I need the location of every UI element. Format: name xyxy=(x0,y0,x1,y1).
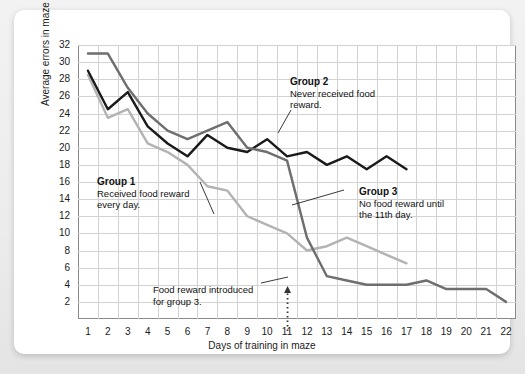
x-axis-tick-label: 6 xyxy=(178,326,198,337)
y-axis-tick-label: 16 xyxy=(44,176,70,187)
x-axis-tick-label: 21 xyxy=(476,326,496,337)
x-axis-tick-label: 12 xyxy=(297,326,317,337)
x-axis-tick-label: 5 xyxy=(158,326,178,337)
y-axis-tick-label: 32 xyxy=(44,39,70,50)
annotation-food-reward-line2: for group 3. xyxy=(153,296,253,308)
x-axis-tick-label: 7 xyxy=(197,326,217,337)
annotation-group-3-header: Group 3 xyxy=(359,186,444,198)
y-axis-tick-label: 14 xyxy=(44,193,70,204)
annotation-group-2-line2: reward. xyxy=(290,99,375,111)
x-axis-tick-label: 16 xyxy=(377,326,397,337)
y-axis-tick-label: 28 xyxy=(44,73,70,84)
y-axis-tick-label: 18 xyxy=(44,159,70,170)
x-axis-tick-label: 10 xyxy=(257,326,277,337)
annotation-group-3: Group 3 No food reward until the 11th da… xyxy=(359,186,444,221)
annotation-group-2-header: Group 2 xyxy=(290,76,375,88)
annotation-food-reward-introduced: Food reward introduced for group 3. xyxy=(153,284,253,307)
chart-screenshot: Average errors in maze 24681012141618202… xyxy=(0,0,525,374)
chart-card: Average errors in maze 24681012141618202… xyxy=(14,10,510,354)
y-axis-tick-label: 4 xyxy=(44,279,70,290)
x-axis-tick-label: 11 xyxy=(277,326,297,337)
x-axis-tick-label: 19 xyxy=(436,326,456,337)
x-axis-tick-label: 20 xyxy=(456,326,476,337)
y-axis-tick-label: 30 xyxy=(44,56,70,67)
y-axis-tick-label: 6 xyxy=(44,262,70,273)
x-axis-tick-label: 8 xyxy=(217,326,237,337)
x-axis-tick-label: 22 xyxy=(496,326,516,337)
annotation-group-3-line1: No food reward until xyxy=(359,198,444,210)
x-axis-tick-label: 14 xyxy=(337,326,357,337)
y-axis-tick-label: 24 xyxy=(44,108,70,119)
y-axis-tick-label: 22 xyxy=(44,125,70,136)
x-axis-tick-label: 1 xyxy=(78,326,98,337)
y-axis-tick-label: 8 xyxy=(44,245,70,256)
annotation-group-1-line1: Received food reward xyxy=(97,188,189,200)
annotation-group-2-line1: Never received food xyxy=(290,88,375,100)
x-axis-tick-label: 17 xyxy=(397,326,417,337)
annotation-group-1: Group 1 Received food reward every day. xyxy=(97,176,189,211)
x-axis-tick-label: 3 xyxy=(118,326,138,337)
x-axis-tick-label: 15 xyxy=(357,326,377,337)
y-axis-tick-label: 2 xyxy=(44,296,70,307)
y-axis-tick-label: 20 xyxy=(44,142,70,153)
annotation-food-reward-line1: Food reward introduced xyxy=(153,284,253,296)
x-axis-tick-label: 9 xyxy=(237,326,257,337)
x-axis-tick-label: 4 xyxy=(138,326,158,337)
y-axis-tick-label: 12 xyxy=(44,210,70,221)
x-axis-title: Days of training in maze xyxy=(14,340,510,351)
annotation-group-1-header: Group 1 xyxy=(97,176,189,188)
x-axis-tick-label: 2 xyxy=(98,326,118,337)
x-axis-tick-label: 18 xyxy=(416,326,436,337)
y-axis-tick-label: 10 xyxy=(44,227,70,238)
y-axis-tick-label: 26 xyxy=(44,90,70,101)
annotation-group-1-line2: every day. xyxy=(97,199,189,211)
annotation-group-2: Group 2 Never received food reward. xyxy=(290,76,375,111)
x-axis-tick-label: 13 xyxy=(317,326,337,337)
annotation-group-3-line2: the 11th day. xyxy=(359,209,444,221)
